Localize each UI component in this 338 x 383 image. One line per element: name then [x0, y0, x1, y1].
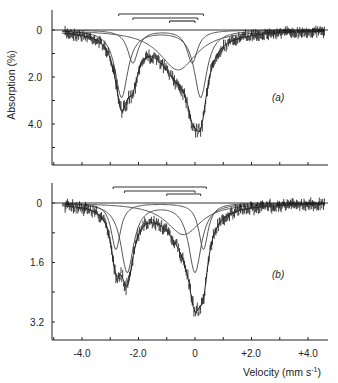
- xtick-plus-2: +2.0: [241, 348, 261, 359]
- panel-b-ticks: [52, 203, 308, 340]
- panel-b-ytick-1: 1.6: [30, 257, 44, 268]
- fit-component-broad-component: [62, 31, 324, 70]
- panel-a-ytick-0: 0: [36, 25, 42, 36]
- fit-envelope: [62, 31, 324, 131]
- panel-b-stick-bars: [113, 187, 206, 196]
- xtick-minus-4: -4.0: [73, 348, 91, 359]
- xtick-minus-2: -2.0: [129, 348, 147, 359]
- panel-a-curves: [52, 26, 328, 138]
- panel-a-stick-bars: [119, 14, 204, 23]
- panel-b: 0 1.6 3.2 (b) -4.0 -2.0 0 +2.0 +4.0: [30, 183, 328, 359]
- data-points: [65, 197, 324, 316]
- panel-a-ytick-2: 4.0: [28, 119, 42, 130]
- panel-b-ytick-2: 3.2: [30, 317, 44, 328]
- panel-b-ytick-0: 0: [36, 198, 42, 209]
- xtick-0: 0: [192, 348, 198, 359]
- y-axis-title: Absorption (%): [5, 50, 17, 119]
- xtick-plus-4: +4.0: [298, 348, 318, 359]
- panel-b-curves: [52, 197, 328, 316]
- panel-a-label: (a): [272, 92, 284, 103]
- panel-a: 0 2.0 4.0 (a): [28, 10, 328, 165]
- panel-b-label: (b): [272, 269, 284, 280]
- panel-a-ytick-1: 2.0: [28, 72, 42, 83]
- fit-component-doublet-2: [62, 30, 324, 63]
- x-axis-title: Velocity (mm s-1): [243, 366, 321, 378]
- mossbauer-spectra-figure: 0 2.0 4.0 (a) Absorption (%) 0 1.6 3.2 (…: [0, 0, 338, 383]
- panel-a-ticks: [52, 30, 308, 165]
- data-points: [65, 26, 324, 138]
- fit-envelope: [62, 204, 324, 312]
